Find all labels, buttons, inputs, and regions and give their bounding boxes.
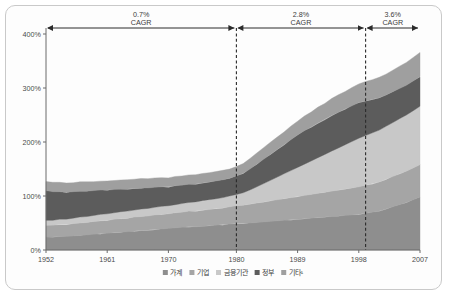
cagr-unit-label: CAGR [131, 18, 152, 27]
x-tick-label: 1952 [38, 255, 54, 264]
y-tick-label: 0% [31, 246, 42, 255]
legend-label: 정부 [262, 268, 275, 277]
cagr-unit-label: CAGR [291, 18, 312, 27]
x-tick-label: 1989 [290, 255, 306, 264]
x-tick-label: 1961 [99, 255, 115, 264]
x-tick-label: 1998 [351, 255, 367, 264]
legend-swatch [255, 270, 260, 275]
legend-swatch [189, 270, 194, 275]
y-tick-label: 200% [23, 138, 42, 147]
legend-swatch [281, 270, 286, 275]
x-tick-label: 1980 [228, 255, 244, 264]
legend-label: 가계 [170, 268, 182, 277]
legend-label: 기타¹ [289, 268, 304, 277]
x-tick-label: 1970 [160, 255, 176, 264]
legend-label: 기업 [197, 268, 209, 277]
legend-swatch [163, 270, 168, 275]
y-tick-label: 400% [23, 30, 42, 39]
cagr-unit-label: CAGR [382, 18, 403, 27]
chart-screenshot: 0%100%200%300%400%1952196119701980198919… [0, 0, 449, 296]
y-tick-label: 300% [23, 84, 42, 93]
stacked-area-chart: 0%100%200%300%400%1952196119701980198919… [0, 0, 449, 296]
y-tick-label: 100% [23, 192, 42, 201]
x-tick-label: 2007 [412, 255, 428, 264]
legend-swatch [216, 270, 221, 275]
legend-label: 금융기관 [224, 268, 249, 277]
